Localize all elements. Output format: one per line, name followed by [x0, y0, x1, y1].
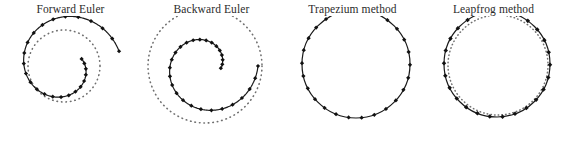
data-point-marker	[22, 61, 26, 65]
plot-forward-euler	[0, 16, 141, 147]
data-point-marker	[42, 92, 46, 96]
data-point-marker	[84, 73, 88, 77]
plot-backward-euler	[141, 16, 282, 147]
data-point-marker	[89, 19, 93, 23]
trajectory-markers-trapezium-method	[300, 16, 412, 120]
data-point-marker	[514, 16, 519, 17]
plot-trapezium-method	[282, 16, 423, 147]
data-point-marker	[51, 17, 55, 21]
data-point-marker	[82, 79, 86, 83]
data-point-marker	[347, 115, 351, 119]
data-point-marker	[59, 95, 63, 99]
numerical-methods-figure: Forward Euler Backward Euler	[0, 0, 565, 147]
trajectory-markers-forward-euler	[22, 16, 122, 99]
panel-title-forward-euler: Forward Euler	[0, 2, 141, 16]
data-point-marker	[220, 107, 224, 111]
data-point-marker	[221, 58, 225, 62]
data-point-marker	[301, 74, 305, 78]
panel-title-trapezium-method: Trapezium method	[282, 2, 423, 16]
data-point-marker	[76, 16, 80, 19]
data-point-marker	[306, 86, 310, 90]
data-point-marker	[447, 86, 452, 91]
data-point-marker	[443, 48, 448, 53]
data-point-marker	[170, 83, 174, 87]
exact-circle-backward-euler	[148, 16, 262, 123]
data-point-marker	[546, 50, 551, 55]
panel-leapfrog-method: Leapfrog method	[423, 0, 564, 147]
panel-title-leapfrog-method: Leapfrog method	[423, 2, 564, 16]
plot-svg-trapezium-method	[282, 16, 423, 147]
plot-leapfrog-method	[423, 16, 564, 147]
data-point-marker	[25, 40, 29, 44]
data-point-marker	[67, 93, 71, 97]
trajectory-markers-backward-euler	[168, 37, 260, 112]
data-point-marker	[220, 53, 224, 57]
exact-circle-leapfrog-method	[448, 16, 548, 115]
panel-title-backward-euler: Backward Euler	[141, 2, 282, 16]
panel-backward-euler: Backward Euler	[141, 0, 282, 147]
plot-svg-forward-euler	[0, 16, 141, 147]
data-point-marker	[219, 66, 223, 70]
data-point-marker	[24, 71, 28, 75]
data-point-marker	[408, 63, 412, 67]
data-point-marker	[209, 108, 213, 112]
data-point-marker	[82, 61, 86, 65]
data-point-marker	[300, 61, 304, 65]
plot-svg-leapfrog-method	[423, 16, 564, 147]
data-point-marker	[199, 107, 203, 111]
data-point-marker	[334, 112, 338, 116]
data-point-marker	[191, 38, 195, 42]
data-point-marker	[117, 49, 121, 53]
data-point-marker	[256, 64, 260, 68]
data-point-marker	[204, 38, 208, 42]
trajectory-forward-euler	[22, 16, 122, 99]
data-point-marker	[22, 51, 26, 55]
data-point-marker	[372, 113, 376, 117]
panel-forward-euler: Forward Euler	[0, 0, 141, 147]
data-point-marker	[168, 74, 172, 78]
data-point-marker	[51, 95, 55, 99]
trajectory-backward-euler	[168, 37, 260, 112]
data-point-marker	[475, 111, 480, 116]
data-point-marker	[407, 50, 411, 54]
data-point-marker	[253, 76, 257, 80]
data-point-marker	[84, 67, 88, 71]
data-point-marker	[360, 116, 364, 120]
data-point-marker	[198, 37, 202, 41]
data-point-marker	[402, 38, 406, 42]
data-point-marker	[170, 58, 174, 62]
data-point-marker	[442, 61, 447, 66]
data-point-marker	[302, 48, 306, 52]
data-point-marker	[168, 66, 172, 70]
trajectory-trapezium-method	[300, 16, 412, 120]
data-point-marker	[220, 62, 224, 66]
data-point-marker	[500, 114, 505, 119]
panel-trapezium-method: Trapezium method	[282, 0, 423, 147]
plot-svg-backward-euler	[141, 16, 282, 147]
data-point-marker	[406, 76, 410, 80]
data-point-marker	[443, 74, 448, 79]
